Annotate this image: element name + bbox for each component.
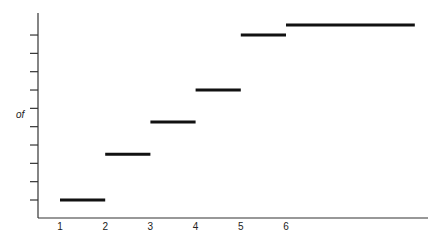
x-tick-label: 5 [238, 221, 244, 232]
x-tick-label: 6 [283, 221, 289, 232]
y-ticks [30, 35, 38, 200]
x-tick-label: 4 [193, 221, 199, 232]
data-series [60, 25, 415, 200]
y-axis-label: of [16, 109, 26, 120]
x-tick-label: 2 [102, 221, 108, 232]
x-tick-labels: 123456 [57, 221, 289, 232]
x-tick-label: 3 [148, 221, 154, 232]
axes [30, 13, 428, 218]
x-tick-label: 1 [57, 221, 63, 232]
step-chart: 123456 of [0, 0, 433, 244]
